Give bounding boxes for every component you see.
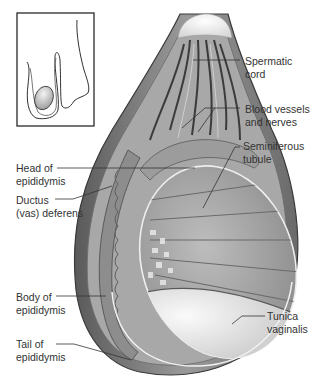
label-tail-of-epididymis: Tail of epididymis	[16, 338, 66, 363]
label-line: (vas) deferens	[16, 207, 83, 220]
label-line: Spermatic	[245, 55, 292, 68]
label-line: epididymis	[16, 304, 66, 317]
label-line: epididymis	[16, 175, 66, 188]
label-line: Tunica	[267, 310, 308, 323]
label-line: Body of	[16, 291, 66, 304]
label-spermatic-cord: Spermatic cord	[245, 55, 292, 80]
label-head-of-epididymis: Head of epididymis	[16, 162, 66, 187]
label-seminiferous-tubule: Seminiferous tubule	[243, 140, 304, 165]
label-line: Head of	[16, 162, 66, 175]
label-line: cord	[245, 68, 292, 81]
label-ductus-deferens: Ductus (vas) deferens	[16, 194, 83, 219]
label-blood-vessels-nerves: Blood vessels and nerves	[245, 103, 310, 128]
label-body-of-epididymis: Body of epididymis	[16, 291, 66, 316]
label-line: tubule	[243, 153, 304, 166]
label-line: Tail of	[16, 338, 66, 351]
inset-frame	[17, 13, 94, 126]
label-line: vaginalis	[267, 323, 308, 336]
label-line: epididymis	[16, 351, 66, 364]
label-line: Ductus	[16, 194, 83, 207]
label-line: Seminiferous	[243, 140, 304, 153]
label-line: Blood vessels	[245, 103, 310, 116]
label-line: and nerves	[245, 116, 310, 129]
label-tunica-vaginalis: Tunica vaginalis	[267, 310, 308, 335]
